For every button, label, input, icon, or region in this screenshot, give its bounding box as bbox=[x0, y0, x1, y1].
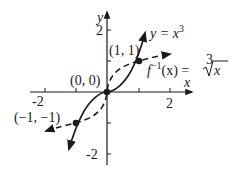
label-origin: (0, 0) bbox=[70, 73, 101, 89]
x-tick-neg2: -2 bbox=[32, 94, 44, 109]
y-tick-neg2: -2 bbox=[86, 147, 98, 162]
point-1-1 bbox=[136, 58, 143, 65]
chart: -2 2 2 -2 x y (0, 0) (1, 1) (−1, −1) y =… bbox=[0, 0, 236, 174]
svg-text:x: x bbox=[213, 63, 221, 78]
y-axis-label: y bbox=[95, 10, 104, 25]
x-tick-2: 2 bbox=[166, 96, 173, 111]
cubic-label: y = x3 bbox=[148, 23, 184, 41]
label-neg1-neg1: (−1, −1) bbox=[14, 110, 60, 126]
label-1-1: (1, 1) bbox=[109, 43, 140, 59]
point-neg1-neg1 bbox=[73, 120, 80, 127]
point-origin bbox=[104, 89, 111, 96]
radical-icon: 3 x bbox=[203, 52, 228, 78]
y-tick-2: 2 bbox=[96, 23, 103, 38]
inverse-label: f−1(x) = bbox=[147, 60, 189, 79]
